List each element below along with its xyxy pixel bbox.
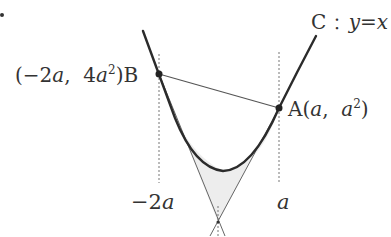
shaded-region <box>159 74 279 222</box>
x-label-right: a <box>277 192 290 213</box>
bullet-dot <box>0 13 4 17</box>
curve-label: C ：y=x <box>311 12 388 32</box>
point-A-name: A <box>288 97 302 121</box>
chord-AB <box>159 74 279 108</box>
curve-eq-lhs: y <box>349 10 360 34</box>
curve-separator: ： <box>333 14 349 33</box>
curve-name: C <box>311 10 326 34</box>
x-label-left: −2a <box>131 192 175 213</box>
curve-eq-rhs: x <box>377 10 388 34</box>
point-B-label: (−2a, 4a2)B <box>15 65 138 85</box>
curve-eq-sign: = <box>360 10 377 34</box>
point-A-marker <box>276 105 283 112</box>
point-A-label: A(a, a2) <box>288 99 369 119</box>
point-B-name: B <box>123 63 138 87</box>
point-B-marker <box>156 71 163 78</box>
tangent-intersection-marker <box>217 221 220 224</box>
